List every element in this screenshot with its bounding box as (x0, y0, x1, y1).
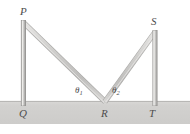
angle-label-theta-2: θ2 (112, 86, 120, 96)
theta-subscript-2: 2 (117, 89, 120, 96)
point-label-Q: Q (19, 108, 27, 119)
theta-symbol-2: θ (112, 85, 116, 95)
physics-diagram-canvas: P S Q R T θ1 θ2 (0, 0, 190, 134)
point-label-T: T (149, 108, 155, 119)
theta-symbol-1: θ (75, 85, 79, 95)
theta-subscript-1: 1 (80, 89, 83, 96)
left-beam (23, 23, 105, 103)
diagram-vector-layer (0, 0, 190, 134)
ground-band (0, 101, 190, 124)
point-label-P: P (20, 6, 27, 17)
right-pole (153, 30, 158, 106)
left-pole (21, 20, 26, 106)
point-label-R: R (101, 108, 108, 119)
angle-label-theta-1: θ1 (75, 86, 83, 96)
point-label-S: S (151, 16, 157, 27)
